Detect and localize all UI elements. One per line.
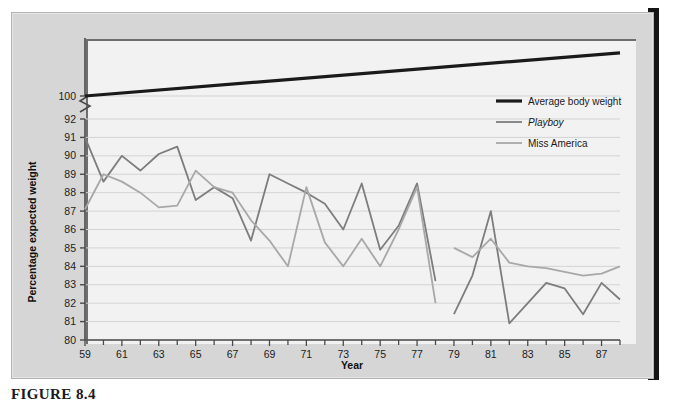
y-tick-label: 100 (58, 90, 76, 102)
x-tick-label: 87 (596, 348, 608, 360)
y-tick-label: 84 (64, 260, 76, 272)
legend-label: Playboy (528, 117, 565, 128)
x-tick-label: 65 (190, 348, 202, 360)
y-tick-label: 86 (64, 223, 76, 235)
y-tick-label: 92 (64, 113, 76, 125)
x-tick-label: 85 (559, 348, 571, 360)
x-tick-label: 71 (301, 348, 313, 360)
chart-svg-wrap: 80818283848586878889909192100 5961636567… (0, 0, 676, 409)
series-paths-group (85, 53, 620, 324)
legend-label: Miss America (528, 138, 588, 149)
x-tick-label: 61 (116, 348, 128, 360)
y-tick-label: 82 (64, 297, 76, 309)
y-tick-label: 85 (64, 242, 76, 254)
y-tick-label: 80 (64, 334, 76, 346)
figure-caption: FIGURE 8.4 (11, 386, 96, 404)
x-tick-label: 63 (153, 348, 165, 360)
y-tick-labels-group: 80818283848586878889909192100 (58, 90, 76, 346)
series-line (85, 171, 436, 304)
x-tick-label: 79 (448, 348, 460, 360)
x-tick-label: 75 (374, 348, 386, 360)
x-tick-label: 59 (79, 348, 91, 360)
y-tick-label: 83 (64, 278, 76, 290)
y-tick-label: 89 (64, 168, 76, 180)
y-tick-label: 90 (64, 149, 76, 161)
y-tick-label: 87 (64, 205, 76, 217)
y-axis-title: Percentage expected weight (26, 161, 38, 303)
figure-page: 80818283848586878889909192100 5961636567… (0, 0, 676, 409)
x-tick-label: 81 (485, 348, 497, 360)
legend: Average body weightPlayboyMiss America (496, 96, 621, 149)
line-chart: 80818283848586878889909192100 5961636567… (0, 0, 676, 409)
x-axis-title: Year (341, 359, 363, 371)
y-tick-label: 91 (64, 131, 76, 143)
x-tick-label: 69 (264, 348, 276, 360)
x-axis-ticks-group (85, 340, 620, 346)
axis-break-icon (80, 96, 90, 112)
y-tick-label: 88 (64, 186, 76, 198)
legend-label: Average body weight (528, 96, 621, 107)
series-line (454, 239, 620, 276)
x-tick-label: 83 (522, 348, 534, 360)
gridlines-group (85, 96, 620, 340)
series-line (85, 53, 620, 96)
y-tick-label: 81 (64, 315, 76, 327)
x-tick-label: 77 (411, 348, 423, 360)
x-tick-label: 67 (227, 348, 239, 360)
